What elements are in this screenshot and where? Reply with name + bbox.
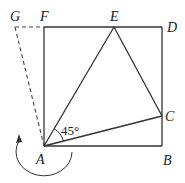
geometry-figure: G F E D C B A 45° xyxy=(0,0,185,183)
rotation-arrowhead-icon xyxy=(16,134,22,143)
label-E: E xyxy=(109,9,119,24)
label-A: A xyxy=(35,152,45,167)
segment-GA-dashed xyxy=(15,27,44,146)
label-B: B xyxy=(163,153,172,168)
label-F: F xyxy=(39,9,49,24)
label-C: C xyxy=(165,109,175,124)
label-G: G xyxy=(10,9,20,24)
angle-label: 45° xyxy=(61,123,79,138)
segment-EC xyxy=(114,27,162,116)
label-D: D xyxy=(166,20,177,35)
